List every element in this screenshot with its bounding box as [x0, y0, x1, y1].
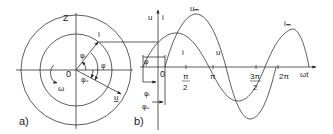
curve-u-label: u [216, 48, 220, 57]
vector-i-label: i [98, 30, 100, 39]
omega-label: ω [58, 84, 64, 93]
tick-label-pi-half-den: 2 [183, 83, 188, 92]
tick-label-pi: π [210, 72, 216, 81]
y-axis-label-u: u [148, 13, 152, 22]
tick-label-3pi-half-num: 3π [250, 72, 260, 81]
omega-rotation-arrow [51, 65, 57, 83]
origin-label-b: 0 [160, 69, 165, 79]
x-axis-label: ωt [300, 70, 309, 79]
phi-label-a: φ [101, 62, 106, 70]
phi-i-arc [82, 62, 86, 70]
tick-label-pi-half-num: π [183, 72, 189, 81]
y-axis-label-i: i [162, 13, 164, 22]
curve-i [143, 29, 309, 101]
phi-u-label-a: φᵤ [81, 76, 89, 84]
curve-i-label: i [182, 48, 184, 57]
curve-u [165, 14, 276, 119]
phasor-diagram [16, 13, 158, 129]
tick-label-3pi-half-den: 2 [253, 83, 258, 92]
panel-label-b: b) [134, 115, 144, 127]
origin-label-a: 0 [66, 69, 71, 79]
phi-u-arc [91, 70, 93, 78]
tick-label-2pi: 2π [279, 72, 289, 81]
phi-u-label-b: φᵤ [142, 103, 150, 111]
z-label: Z [63, 13, 69, 23]
phi-i-label-b: φᵢ [144, 90, 150, 98]
i-max-label: iₘ [284, 19, 291, 28]
waveform-plot [140, 10, 316, 130]
phi-i-label-a: φᵢ [80, 52, 86, 60]
phi-label-b: φ [144, 58, 149, 66]
vector-u-label: u [114, 93, 118, 102]
u-max-label: uₘ [190, 4, 199, 13]
panel-label-a: a) [19, 115, 29, 127]
phasor-and-waveform-diagram: Z 0 ω i u φᵢ φ φᵤ a) u i 0 i u uₘ iₘ φ φ… [0, 0, 333, 134]
